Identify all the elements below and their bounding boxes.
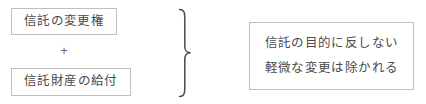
plus-operator-glyph: + bbox=[60, 44, 68, 57]
node-label-trust-change-right: 信託の変更権 bbox=[24, 15, 104, 28]
diagram-canvas: 信託の変更権 + 信託財産の給付 信託の目的に反しない 軽微な変更は除かれる bbox=[0, 0, 426, 104]
right-curly-brace-icon bbox=[173, 4, 201, 102]
condition-line-minor-change: 軽微な変更は除かれる bbox=[265, 56, 399, 81]
node-label-trust-property-benefit: 信託財産の給付 bbox=[24, 75, 118, 88]
node-box-trust-change-right: 信託の変更権 bbox=[11, 8, 117, 35]
condition-line-purpose: 信託の目的に反しない bbox=[265, 31, 399, 56]
node-box-trust-property-benefit: 信託財産の給付 bbox=[11, 68, 131, 96]
plus-operator: + bbox=[11, 40, 117, 60]
node-box-conditions: 信託の目的に反しない 軽微な変更は除かれる bbox=[249, 22, 414, 90]
